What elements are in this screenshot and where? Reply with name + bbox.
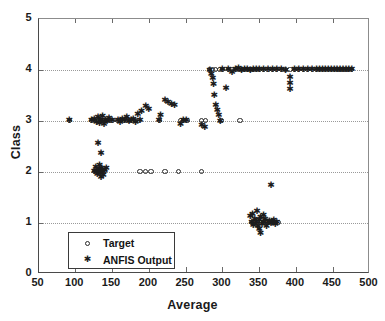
scatter-chart-figure: ✱✱✱✱✱✱✱✱✱✱✱✱✱✱✱✱✱✱✱✱✱✱✱✱✱✱✱✱✱✱✱✱✱✱✱✱✱✱✱✱…: [0, 0, 385, 321]
anfis-output-point: ✱: [65, 116, 74, 125]
y-tick-label-3: 3: [10, 113, 32, 125]
y-tick-label-5: 5: [10, 11, 32, 23]
anfis-output-point: ✱: [156, 111, 165, 120]
target-point: [176, 169, 181, 174]
y-tick-3: [39, 121, 44, 122]
x-tick-400: [296, 19, 297, 24]
x-axis-label: Average: [0, 298, 385, 312]
x-tick-label-100: 100: [54, 276, 94, 288]
anfis-output-point: ✱: [170, 101, 179, 110]
x-tick-label-300: 300: [201, 276, 241, 288]
target-point: [162, 169, 167, 174]
x-tick-label-150: 150: [91, 276, 131, 288]
y-tick-label-0: 0: [10, 266, 32, 278]
anfis-output-point: ✱: [182, 116, 191, 125]
circle-open-icon: [77, 235, 99, 252]
asterisk-icon: ✱: [77, 252, 99, 269]
x-tick-label-50: 50: [18, 276, 58, 288]
anfis-output-point: ✱: [97, 149, 106, 158]
anfis-output-point: ✱: [144, 105, 153, 114]
anfis-output-point: ✱: [200, 123, 209, 132]
y-tick-label-2: 2: [10, 164, 32, 176]
anfis-output-point: ✱: [266, 181, 275, 190]
anfis-output-point: ✱: [347, 65, 356, 74]
anfis-output-point: ✱: [222, 84, 231, 93]
gridline-y-1: [39, 223, 368, 224]
x-tick-450: [333, 19, 334, 24]
x-tick-300: [222, 19, 223, 24]
anfis-output-point: ✱: [255, 225, 264, 234]
x-tick-200: [149, 19, 150, 24]
y-tick-label-4: 4: [10, 62, 32, 74]
anfis-output-point: ✱: [136, 116, 145, 125]
x-tick-100: [75, 19, 76, 24]
anfis-output-point: ✱: [209, 80, 218, 89]
x-tick-450: [333, 267, 334, 272]
y-tick-4: [39, 70, 44, 71]
anfis-output-point: ✱: [259, 211, 268, 220]
legend-entry-anfis-output: ✱ANFIS Output: [69, 252, 174, 269]
target-point: [148, 169, 153, 174]
y-tick-label-1: 1: [10, 215, 32, 227]
y-tick-2: [39, 172, 44, 173]
x-tick-350: [259, 19, 260, 24]
x-tick-250: [186, 267, 187, 272]
x-tick-350: [259, 267, 260, 272]
anfis-output-point: ✱: [248, 210, 257, 219]
target-point: [137, 169, 142, 174]
x-tick-150: [112, 19, 113, 24]
anfis-output-point: ✱: [286, 85, 295, 94]
x-tick-400: [296, 267, 297, 272]
x-tick-label-500: 500: [349, 276, 385, 288]
chart-legend: Target✱ANFIS Output: [68, 232, 175, 269]
target-point: [199, 169, 204, 174]
x-tick-300: [222, 267, 223, 272]
x-tick-250: [186, 19, 187, 24]
anfis-output-point: ✱: [94, 139, 103, 148]
legend-entry-target: Target: [69, 235, 174, 252]
target-point: [237, 118, 242, 123]
x-tick-label-450: 450: [312, 276, 352, 288]
legend-label: ANFIS Output: [103, 254, 172, 266]
x-tick-label-250: 250: [165, 276, 205, 288]
x-tick-label-350: 350: [238, 276, 278, 288]
anfis-output-point: ✱: [94, 167, 103, 176]
anfis-output-point: ✱: [272, 218, 281, 227]
anfis-output-point: ✱: [216, 117, 225, 126]
y-tick-1: [39, 223, 44, 224]
legend-label: Target: [103, 237, 134, 249]
x-tick-label-200: 200: [128, 276, 168, 288]
x-tick-label-400: 400: [275, 276, 315, 288]
anfis-output-point: ✱: [210, 91, 219, 100]
